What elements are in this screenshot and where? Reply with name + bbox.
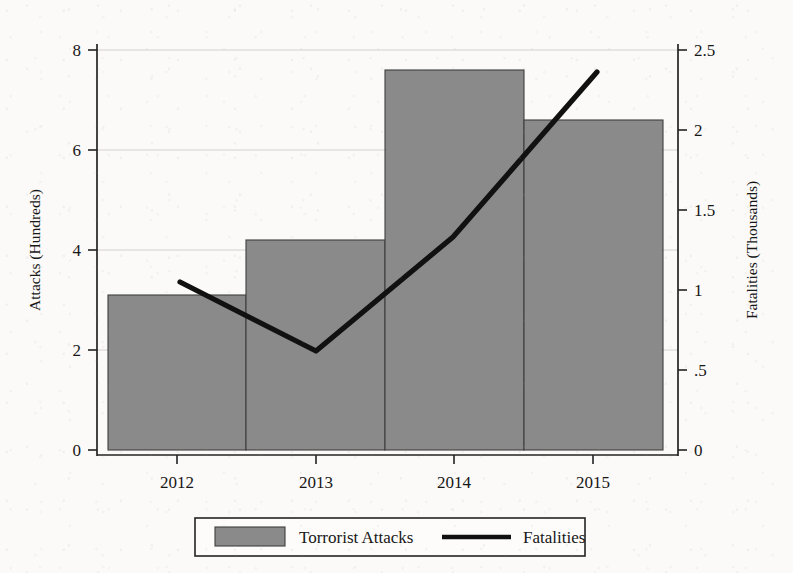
left-axis-ticks (88, 50, 97, 450)
right-tick-label-1: 1 (694, 281, 703, 300)
legend-swatch-torrorist-attacks[interactable] (215, 527, 285, 546)
right-tick-label-2: 2 (694, 121, 703, 140)
x-axis-ticks (177, 455, 593, 464)
legend-label-torrorist-attacks: Torrorist Attacks (299, 528, 413, 547)
right-axis-title: Fatalities (Thousands) (743, 181, 761, 319)
left-axis-title: Attacks (Hundreds) (26, 189, 44, 311)
bar-2014[interactable] (385, 70, 524, 450)
left-axis-tick-labels: 8 6 4 2 0 (73, 41, 82, 460)
dual-axis-bar-line-chart: 8 6 4 2 0 Attacks (Hundreds) 2.5 2 1.5 1… (0, 0, 793, 573)
right-tick-label-0-5: .5 (694, 361, 707, 380)
x-axis-category-labels: 2012 2013 2014 2015 (160, 473, 610, 492)
right-axis-tick-labels: 2.5 2 1.5 1 .5 0 (694, 41, 715, 460)
category-label-2013: 2013 (299, 473, 333, 492)
right-tick-label-0: 0 (694, 441, 703, 460)
chart-legend: Torrorist Attacks Fatalities (195, 518, 585, 556)
left-tick-label-2: 2 (73, 341, 82, 360)
bar-2012[interactable] (108, 295, 246, 450)
chart-page: 8 6 4 2 0 Attacks (Hundreds) 2.5 2 1.5 1… (0, 0, 793, 573)
legend-label-fatalities: Fatalities (523, 528, 585, 547)
bar-2013[interactable] (246, 240, 385, 450)
bar-2015[interactable] (524, 120, 663, 450)
left-tick-label-8: 8 (73, 41, 82, 60)
left-tick-label-0: 0 (73, 441, 82, 460)
category-label-2014: 2014 (437, 473, 472, 492)
left-tick-label-4: 4 (73, 241, 82, 260)
right-axis-ticks (678, 50, 687, 450)
bar-series-torrorist-attacks (108, 70, 663, 450)
category-label-2012: 2012 (160, 473, 194, 492)
left-tick-label-6: 6 (73, 141, 82, 160)
right-tick-label-1-5: 1.5 (694, 201, 715, 220)
right-tick-label-2-5: 2.5 (694, 41, 715, 60)
category-label-2015: 2015 (576, 473, 610, 492)
